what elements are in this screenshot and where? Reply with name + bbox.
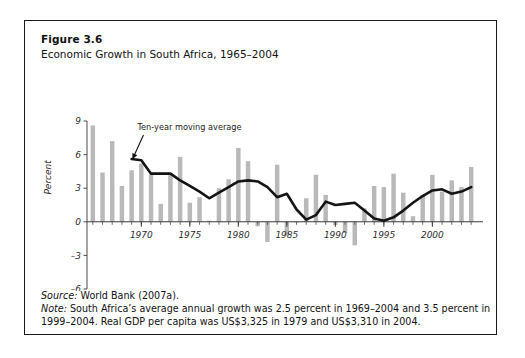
source-note: Source: World Bank (2007a). xyxy=(41,289,483,302)
note-line-2: 1999–2004. Real GDP per capita was US$3,… xyxy=(41,315,483,328)
figure-notes: Source: World Bank (2007a). Note: South … xyxy=(41,289,483,329)
bar xyxy=(110,141,114,222)
bar xyxy=(120,186,124,222)
figure-number: Figure 3.6 xyxy=(41,32,471,46)
note-label: Note: xyxy=(41,303,67,314)
economic-growth-chart: 9630–3–61970197519801985199019952000Perc… xyxy=(25,81,496,291)
y-tick-label: 6 xyxy=(75,150,81,160)
note-text-1: South Africa’s average annual growth was… xyxy=(67,303,490,314)
bar xyxy=(178,157,182,222)
chart-plot-area: 9630–3–61970197519801985199019952000Perc… xyxy=(25,81,496,291)
bar xyxy=(450,180,454,221)
bar-series xyxy=(91,125,474,245)
bar xyxy=(411,216,415,222)
figure-container: Figure 3.6 Economic Growth in South Afri… xyxy=(24,20,497,335)
bar xyxy=(236,148,240,222)
y-axis-title: Percent xyxy=(43,160,53,195)
bar xyxy=(391,174,395,222)
x-tick-label: 1990 xyxy=(324,230,347,240)
bar xyxy=(440,192,444,222)
figure-title: Economic Growth in South Africa, 1965–20… xyxy=(41,47,471,62)
x-tick-label: 1995 xyxy=(372,230,395,240)
bar xyxy=(149,175,153,222)
bar xyxy=(168,174,172,222)
annotation-label: Ten-year moving average xyxy=(136,122,241,132)
bar xyxy=(323,195,327,222)
bar xyxy=(159,204,163,222)
x-tick-label: 1975 xyxy=(178,230,201,240)
bar xyxy=(197,197,201,222)
bar xyxy=(469,167,473,222)
x-tick-label: 2000 xyxy=(421,230,444,240)
x-tick-label: 1980 xyxy=(227,230,250,240)
bar xyxy=(100,173,104,222)
note-line-1: Note: South Africa’s average annual grow… xyxy=(41,302,483,315)
source-value: World Bank (2007a). xyxy=(77,290,179,301)
bar xyxy=(265,222,269,242)
bar xyxy=(353,222,357,246)
bar xyxy=(129,170,133,222)
x-tick-label: 1985 xyxy=(275,230,298,240)
y-tick-label: –3 xyxy=(71,251,82,261)
bar xyxy=(246,161,250,221)
y-tick-label: 3 xyxy=(75,183,81,193)
bar xyxy=(139,164,143,222)
bar xyxy=(188,203,192,222)
bar xyxy=(91,125,95,221)
bar xyxy=(420,195,424,222)
bar xyxy=(275,165,279,222)
bar xyxy=(430,175,434,222)
figure-header: Figure 3.6 Economic Growth in South Afri… xyxy=(41,32,471,62)
axes: 9630–3–61970197519801985199019952000Perc… xyxy=(43,116,483,291)
moving-average-line xyxy=(132,159,472,221)
source-label: Source: xyxy=(41,290,77,301)
y-tick-label: 0 xyxy=(75,217,81,227)
x-tick-label: 1970 xyxy=(130,230,153,240)
bar xyxy=(382,187,386,222)
y-tick-label: 9 xyxy=(75,116,81,126)
bar xyxy=(401,193,405,222)
